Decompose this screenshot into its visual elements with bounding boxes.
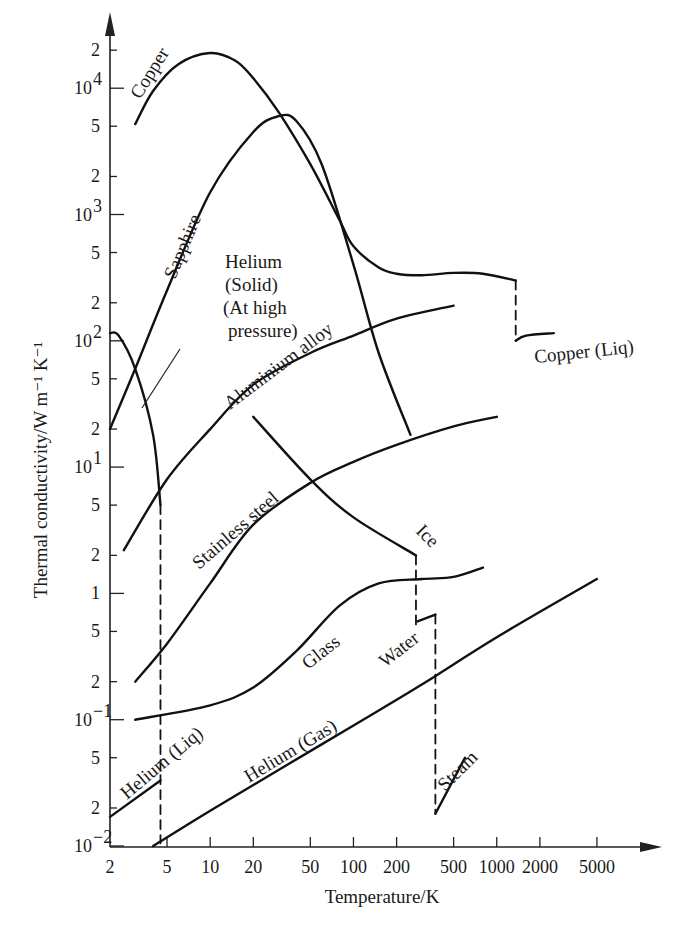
- y-tick-label: 2: [91, 545, 100, 565]
- y-tick-label: 10: [74, 78, 92, 98]
- y-tick-label: 5: [91, 495, 100, 515]
- label-solid: (Solid): [225, 274, 278, 296]
- y-tick-exponent: −2: [93, 827, 112, 847]
- curve-helium-gas: [153, 579, 597, 846]
- y-axis-title: Thermal conductivity/W m⁻¹ K⁻¹: [30, 342, 51, 599]
- y-tick-label: 10: [74, 836, 92, 856]
- y-tick-exponent: 1: [93, 448, 102, 468]
- x-axis-arrow-icon: [640, 842, 662, 852]
- curves: [110, 53, 597, 846]
- label-water: Water: [375, 627, 424, 672]
- y-tick-label: 2: [91, 293, 100, 313]
- y-tick-label: 10: [74, 205, 92, 225]
- curve-aluminium-alloy: [124, 306, 454, 551]
- x-tick-label: 5: [163, 857, 172, 877]
- label-copper-liq: Copper (Liq): [533, 336, 634, 368]
- curve-labels: CopperSapphireHelium(Solid)(At highpress…: [116, 43, 635, 804]
- y-tick-label: 2: [91, 798, 100, 818]
- chart-figure: 2510205010020050010002000500010−22510−12…: [0, 0, 683, 930]
- label-glass: Glass: [298, 631, 344, 674]
- y-tick-label: 10: [74, 331, 92, 351]
- y-tick-label: 2: [91, 40, 100, 60]
- y-tick-label: 10: [74, 710, 92, 730]
- y-tick-exponent: 4: [93, 69, 102, 89]
- curve-glass: [135, 568, 483, 720]
- y-axis-arrow-icon: [105, 12, 115, 36]
- y-tick-label: 5: [91, 116, 100, 136]
- label-helium-gas: Helium (Gas): [240, 715, 340, 787]
- label-at-high: (At high: [223, 297, 287, 319]
- y-tick-label: 2: [91, 166, 100, 186]
- y-tick-label: 5: [91, 369, 100, 389]
- x-tick-label: 1000: [479, 857, 515, 877]
- y-tick-label: 5: [91, 621, 100, 641]
- x-tick-label: 5000: [579, 857, 615, 877]
- curve-ice: [253, 417, 416, 556]
- curve-helium-solid-at-high-pressure: [110, 332, 161, 505]
- curve-copper-liq: [516, 333, 554, 341]
- helium-solid-pointer-line: [142, 349, 180, 408]
- x-tick-label: 10: [201, 857, 219, 877]
- y-tick-label: 2: [91, 419, 100, 439]
- y-tick-exponent: 2: [93, 322, 102, 342]
- label-pressure: pressure): [228, 320, 298, 342]
- label-sapphire: Sapphire: [159, 211, 205, 281]
- label-ice: Ice: [412, 520, 443, 551]
- x-tick-label: 500: [440, 857, 467, 877]
- thermal-conductivity-plot: 2510205010020050010002000500010−22510−12…: [0, 0, 683, 930]
- label-stainless-steel: Stainless steel: [188, 487, 283, 573]
- label-steam: Steam: [433, 746, 482, 795]
- x-tick-label: 2000: [522, 857, 558, 877]
- label-helium: Helium: [225, 251, 282, 272]
- y-tick-exponent: −1: [93, 701, 112, 721]
- x-tick-label: 2: [106, 857, 115, 877]
- x-axis-title: Temperature/K: [325, 886, 440, 907]
- x-tick-label: 50: [301, 857, 319, 877]
- x-tick-label: 200: [383, 857, 410, 877]
- x-tick-label: 20: [244, 857, 262, 877]
- curve-water: [418, 615, 436, 622]
- y-tick-label: 1: [91, 583, 100, 603]
- label-helium-liq: Helium (Liq): [116, 722, 207, 804]
- y-tick-label: 5: [91, 748, 100, 768]
- label-copper: Copper: [126, 43, 174, 102]
- x-tick-label: 100: [340, 857, 367, 877]
- y-tick-exponent: 3: [93, 196, 102, 216]
- y-tick-label: 5: [91, 243, 100, 263]
- y-tick-label: 2: [91, 672, 100, 692]
- y-tick-label: 10: [74, 457, 92, 477]
